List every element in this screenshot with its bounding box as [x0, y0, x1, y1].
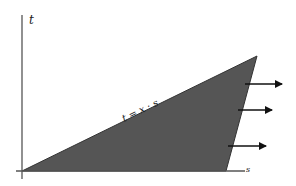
diagram-canvas: t s t = x · s	[0, 0, 296, 186]
y-axis-label: t	[29, 13, 34, 27]
x-axis-label: s	[246, 165, 250, 174]
